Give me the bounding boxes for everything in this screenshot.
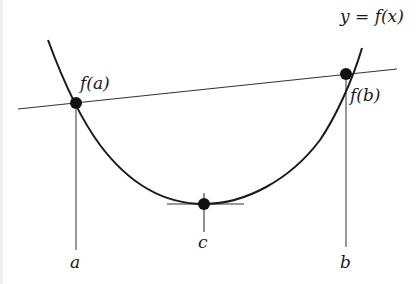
function-curve (48, 40, 362, 204)
label-b: b (340, 252, 351, 272)
point-b (340, 68, 352, 80)
label-fa: f(a) (78, 73, 110, 93)
label-curve: y = f(x) (339, 6, 404, 26)
point-a (70, 97, 82, 109)
diagram-canvas: y = f(x) f(a) f(b) a b c (0, 0, 416, 284)
point-c (198, 198, 210, 210)
label-c: c (198, 232, 208, 252)
label-fb: f(b) (348, 85, 380, 105)
label-a: a (70, 252, 80, 272)
